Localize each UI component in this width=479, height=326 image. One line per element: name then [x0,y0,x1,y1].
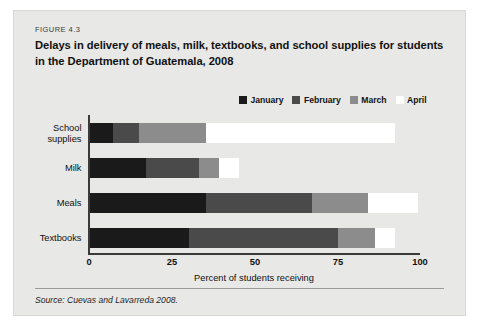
bar-segment-january [90,193,206,213]
bar-segment-april [368,193,418,213]
bar-segment-march [139,123,205,143]
bar-segment-january [90,123,113,143]
x-tick-0: 0 [86,257,91,267]
y-axis-label-school-supplies: Schoolsupplies [47,123,81,144]
x-axis-title: Percent of students receiving [88,273,420,283]
bar-track [90,228,395,248]
bar-row: Textbooks [90,228,395,248]
chart-plot-area: Schoolsupplies Milk Meals Textbooks 0 25… [14,11,465,315]
bar-segment-february [206,193,312,213]
bar-segment-january [90,158,146,178]
x-tick-50: 50 [250,257,260,267]
bar-segment-january [90,228,190,248]
bar-segment-april [375,228,395,248]
y-axis-label-meals: Meals [57,198,82,209]
bar-segment-february [189,228,338,248]
bar-track [90,123,395,143]
x-axis-line [88,253,420,255]
bar-row: Meals [90,193,419,213]
bar-segment-april [206,123,395,143]
bar-segment-february [146,158,199,178]
bar-track [90,158,239,178]
bar-row: Milk [90,158,239,178]
bar-segment-march [312,193,368,213]
bar-row: Schoolsupplies [90,123,395,143]
figure-card: FIGURE 4.3 Delays in delivery of meals, … [14,11,465,315]
x-tick-25: 25 [167,257,177,267]
bar-segment-march [338,228,375,248]
y-axis-label-milk: Milk [65,163,82,174]
bar-segment-february [113,123,140,143]
bar-segment-april [219,158,239,178]
x-tick-100: 100 [412,257,428,267]
bar-segment-march [199,158,219,178]
y-axis-label-textbooks: Textbooks [40,233,82,244]
bar-track [90,193,419,213]
source-note: Source: Cuevas and Lavarreda 2008. [35,295,178,305]
footer-divider [35,288,444,289]
x-tick-75: 75 [333,257,343,267]
